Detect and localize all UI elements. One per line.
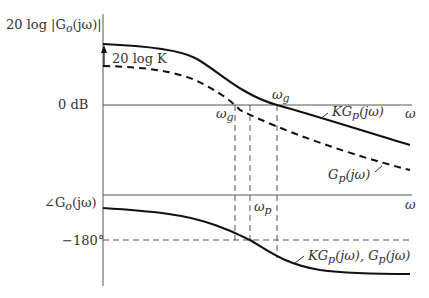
gain-arrow-head-icon	[101, 45, 107, 53]
gp-leader	[375, 166, 382, 172]
gain-label: 20 log K	[112, 52, 167, 65]
magnitude-ylabel: 20 log |Go(jω)|	[6, 18, 102, 34]
omega-g-dashed-label: ωg	[216, 107, 234, 123]
gp-label: Gp(jω)	[328, 168, 370, 184]
kgp-label: KGp(jω)	[332, 105, 384, 121]
omega-p-label: ωp	[254, 200, 272, 216]
phase-omega-axis-label: ω	[405, 198, 416, 211]
phase-ylabel: ∠Go(jω)	[44, 196, 97, 212]
zero-db-label: 0 dB	[58, 98, 88, 111]
minus-180-label: −180°	[62, 234, 104, 247]
phase-curve-label: KGp(jω), Gp(jω)	[308, 249, 410, 265]
omega-g-solid-label: ωg	[272, 88, 290, 104]
mag-omega-axis-label: ω	[405, 107, 416, 120]
phase-leader	[295, 256, 304, 263]
